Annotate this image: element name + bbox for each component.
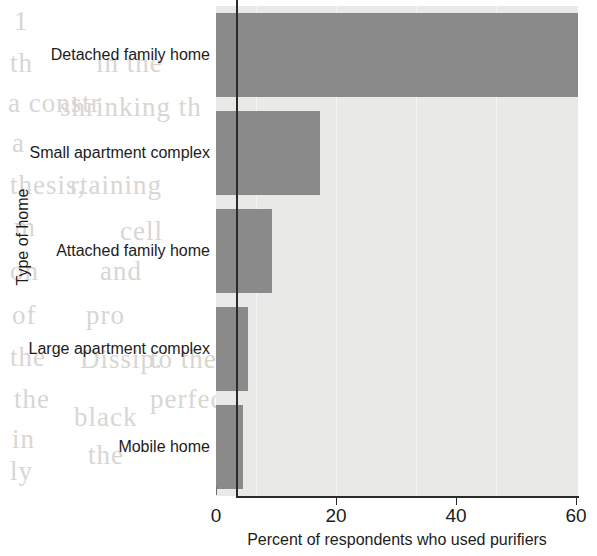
x-axis-tick-label-0: 0 bbox=[211, 505, 222, 527]
bleed-through-text: 1 bbox=[14, 6, 29, 37]
bleed-through-text: pro bbox=[86, 300, 125, 331]
plot-area bbox=[216, 6, 578, 496]
x-axis-tick-20 bbox=[336, 498, 337, 505]
bar-large-apartment-complex bbox=[216, 307, 248, 391]
bleed-through-text: a bbox=[12, 128, 25, 159]
bleed-through-text: ly bbox=[10, 456, 33, 487]
x-axis-tick-40 bbox=[456, 498, 457, 505]
bleed-through-text: and bbox=[100, 256, 142, 287]
x-axis-tick-zero-mark bbox=[216, 487, 217, 495]
x-axis-tick-label-40: 40 bbox=[445, 505, 466, 527]
y-axis-line bbox=[236, 0, 238, 498]
bar-mobile-home bbox=[216, 405, 243, 489]
bleed-through-text: th bbox=[10, 48, 33, 79]
x-axis-tick-label-20: 20 bbox=[325, 505, 346, 527]
bar-attached-family-home bbox=[216, 209, 272, 293]
bleed-through-text: in bbox=[12, 424, 35, 455]
bleed-through-text: shrinking th bbox=[60, 92, 202, 123]
bleed-through-text: black bbox=[74, 402, 137, 433]
x-axis-line bbox=[236, 496, 579, 498]
x-axis-tick-label-60: 60 bbox=[565, 505, 586, 527]
y-axis-title: Type of home bbox=[14, 162, 32, 312]
x-axis-title: Percent of respondents who used purifier… bbox=[216, 531, 578, 549]
y-axis-label-large-apartment-complex: Large apartment complex bbox=[29, 340, 210, 358]
x-axis-tick-60 bbox=[576, 498, 577, 505]
bar-small-apartment-complex bbox=[216, 111, 320, 195]
y-axis-label-detached-family-home: Detached family home bbox=[51, 46, 210, 64]
bar-detached-family-home bbox=[216, 13, 578, 97]
bleed-through-text: rtaining bbox=[70, 170, 162, 201]
bleed-through-text: the bbox=[14, 384, 50, 415]
y-axis-label-small-apartment-complex: Small apartment complex bbox=[29, 144, 210, 162]
chart-figure: 1tha constrathesis,monofthetheinlyin the… bbox=[0, 0, 597, 556]
y-axis-label-attached-family-home: Attached family home bbox=[56, 242, 210, 260]
y-axis-label-mobile-home: Mobile home bbox=[118, 438, 210, 456]
bleed-through-text: a constr bbox=[8, 88, 101, 119]
